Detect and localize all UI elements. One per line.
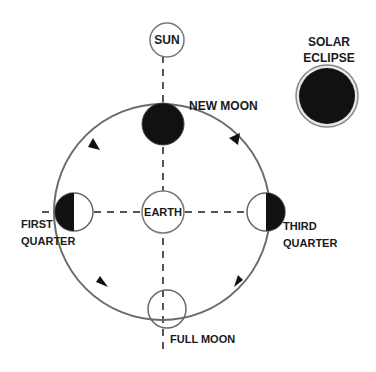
solar-eclipse-label: SOLAR ECLIPSE	[299, 35, 359, 65]
third-quarter-label-line2: QUARTER	[283, 236, 337, 250]
sun-label: SUN	[150, 33, 184, 47]
first-quarter-label-line1: FIRST	[21, 217, 75, 231]
new-moon-icon	[142, 103, 184, 145]
earth-label: EARTH	[142, 206, 184, 218]
third-quarter-label: THIRD QUARTER	[283, 219, 337, 250]
third-quarter-moon-icon	[247, 193, 285, 231]
first-quarter-label-line2: QUARTER	[21, 234, 75, 248]
third-quarter-label-line1: THIRD	[283, 219, 337, 233]
new-moon-label: NEW MOON	[189, 99, 258, 113]
solar-eclipse-label-line2: ECLIPSE	[299, 51, 359, 65]
solar-eclipse-label-line1: SOLAR	[299, 35, 359, 49]
full-moon-label: FULL MOON	[170, 332, 235, 346]
arrow-icon	[229, 133, 240, 145]
arrow-icon	[96, 276, 108, 287]
arrow-icon	[88, 138, 100, 150]
full-moon-icon	[148, 290, 186, 328]
first-quarter-label: FIRST QUARTER	[21, 217, 75, 248]
solar-eclipse-icon	[296, 65, 358, 127]
